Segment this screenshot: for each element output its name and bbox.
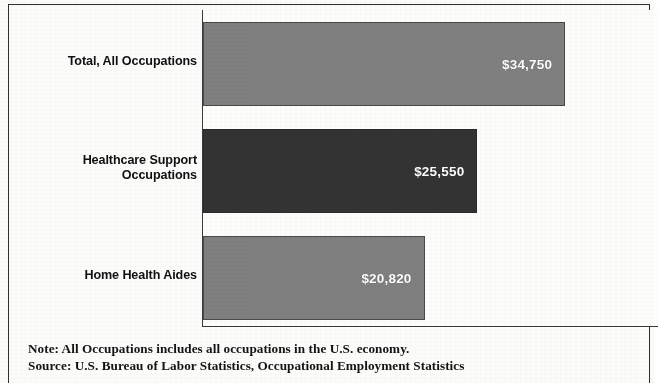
bar-value-home-health-aides: $20,820 [361, 271, 411, 286]
bar-healthcare-support-occupations[interactable]: $25,550 [203, 129, 477, 213]
category-axis-labels: Total, All Occupations Healthcare Suppor… [17, 10, 197, 327]
bar-value-total-all-occupations: $34,750 [502, 57, 552, 72]
footnote-note: Note: All Occupations includes all occup… [28, 341, 638, 358]
bar-home-health-aides[interactable]: $20,820 [203, 236, 425, 320]
category-label-total-all-occupations: Total, All Occupations [68, 54, 197, 69]
bar-value-healthcare-support-occupations: $25,550 [414, 164, 464, 179]
plot-area: $34,750 $25,550 $20,820 [202, 10, 658, 327]
category-label-healthcare-support-occupations: Healthcare Support Occupations [83, 153, 197, 183]
bar-total-all-occupations[interactable]: $34,750 [203, 22, 565, 106]
bar-row-home-health-aides: $20,820 [203, 236, 658, 320]
bar-row-total-all-occupations: $34,750 [203, 22, 658, 106]
chart-footnotes: Note: All Occupations includes all occup… [28, 341, 638, 374]
category-label-home-health-aides: Home Health Aides [84, 268, 197, 283]
footnote-source: Source: U.S. Bureau of Labor Statistics,… [28, 358, 638, 375]
bar-row-healthcare-support-occupations: $25,550 [203, 129, 658, 213]
chart-outer-frame: Total, All Occupations Healthcare Suppor… [8, 4, 650, 383]
